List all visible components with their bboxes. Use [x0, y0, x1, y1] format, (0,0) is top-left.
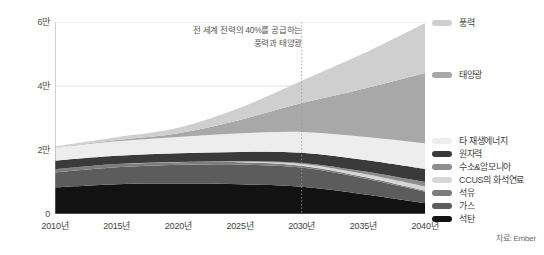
legend-label: 석탄	[459, 212, 474, 225]
legend-swatch-icon	[432, 151, 452, 157]
legend-label: CCUS의 화석연료	[459, 173, 524, 186]
x-axis-tick-label: 2015년	[103, 219, 130, 232]
legend-label: 타 재생에너지	[459, 134, 507, 147]
legend-item[interactable]: 타 재생에너지	[432, 134, 544, 147]
legend-swatch-icon	[432, 177, 452, 183]
legend-label: 원자력	[459, 147, 482, 160]
y-axis-tick-label: 2만	[6, 145, 50, 155]
chart-container: 02만4만6만 전 세계 전력의 40%를 공급하는 풍력과 태양광 2010년…	[0, 0, 544, 255]
x-axis-tick-label: 2010년	[41, 219, 68, 232]
legend-wind: 풍력	[432, 16, 544, 29]
legend-swatch-icon	[432, 190, 452, 196]
legend-swatch-icon	[432, 216, 452, 222]
y-axis: 02만4만6만	[0, 0, 50, 255]
x-axis-tick-label: 2030년	[288, 219, 315, 232]
legend-item[interactable]: 태양광	[432, 68, 544, 81]
legend-label: 태양광	[459, 68, 482, 81]
legend-swatch-icon	[432, 72, 452, 78]
legend-swatch-icon	[432, 20, 452, 26]
legend-item[interactable]: 풍력	[432, 16, 544, 29]
legend-item[interactable]: 원자력	[432, 147, 544, 160]
legend-label: 수소&암모니아	[459, 160, 511, 173]
y-axis-tick-label: 0	[6, 209, 50, 219]
plot-area	[55, 22, 425, 214]
legend-swatch-icon	[432, 164, 452, 170]
y-axis-tick-label: 4만	[6, 81, 50, 91]
legend-solar: 태양광	[432, 68, 544, 81]
x-axis: 2010년2015년2020년2025년2030년2035년2040년	[55, 219, 425, 235]
annotation-line-2: 풍력과 태양광	[150, 37, 302, 50]
legend-item[interactable]: 수소&암모니아	[432, 160, 544, 173]
annotation-line-1: 전 세계 전력의 40%를 공급하는	[150, 24, 302, 37]
legend-label: 가스	[459, 199, 474, 212]
stacked-area-plot	[55, 22, 425, 214]
legend-label: 풍력	[459, 16, 474, 29]
source-note: 자료: Ember	[496, 232, 536, 243]
legend-other-sources: 타 재생에너지원자력수소&암모니아CCUS의 화석연료석유가스석탄	[432, 134, 544, 225]
legend-swatch-icon	[432, 138, 452, 144]
chart-annotation: 전 세계 전력의 40%를 공급하는 풍력과 태양광	[150, 24, 302, 50]
legend-label: 석유	[459, 186, 474, 199]
legend-item[interactable]: CCUS의 화석연료	[432, 173, 544, 186]
legend-item[interactable]: 석탄	[432, 212, 544, 225]
legend-item[interactable]: 석유	[432, 186, 544, 199]
x-axis-tick-label: 2025년	[226, 219, 253, 232]
y-axis-tick-label: 6만	[6, 17, 50, 27]
x-axis-tick-label: 2035년	[350, 219, 377, 232]
legend-swatch-icon	[432, 203, 452, 209]
x-axis-tick-label: 2020년	[165, 219, 192, 232]
legend-item[interactable]: 가스	[432, 199, 544, 212]
